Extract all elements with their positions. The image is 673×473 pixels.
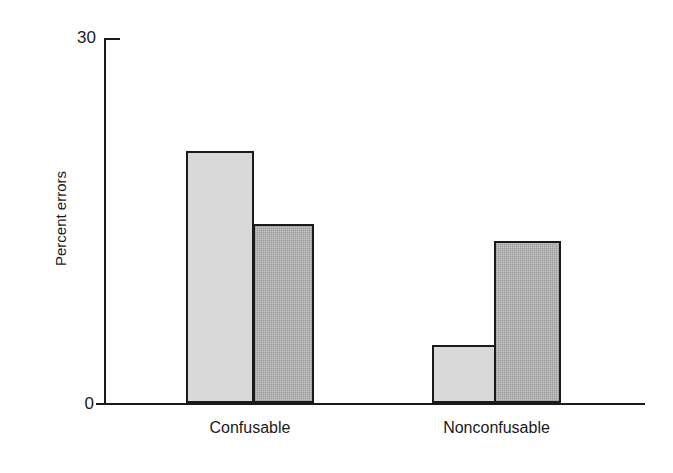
bar-nonconfusable-dark	[494, 241, 561, 403]
bar-confusable-dark	[253, 224, 314, 403]
x-axis-label-nonconfusable: Nonconfusable	[377, 419, 617, 437]
bar-nonconfusable-light	[432, 345, 496, 403]
plot-area	[0, 0, 673, 473]
bar-chart: Percent errors 30 0 Confusable Nonconfus…	[0, 0, 673, 473]
x-axis-label-confusable: Confusable	[130, 419, 370, 437]
bar-confusable-light	[186, 151, 254, 403]
